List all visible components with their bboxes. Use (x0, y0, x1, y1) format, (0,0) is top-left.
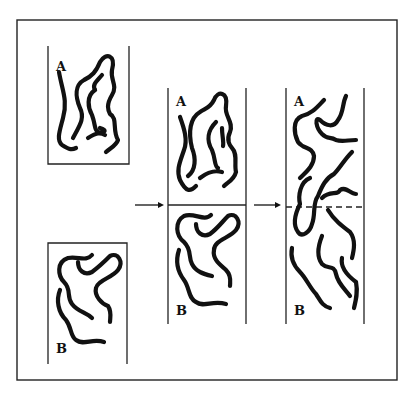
label-b: B (56, 341, 67, 356)
arrow-contact (135, 202, 164, 208)
label-a: A (175, 94, 187, 109)
polymer-interdiffusion-diagram: A B A B (0, 0, 411, 393)
arrow-interdiffuse (254, 202, 281, 208)
label-b: B (294, 303, 305, 318)
sample-b-box: B (48, 243, 127, 364)
stage-separate: A B (48, 46, 129, 364)
label-a: A (293, 94, 305, 109)
sample-a-box: A (48, 46, 129, 164)
outer-frame (17, 20, 397, 380)
label-b: B (176, 303, 187, 318)
stage-interdiffused: A B (286, 88, 364, 324)
stage-contact: A B (168, 88, 246, 324)
